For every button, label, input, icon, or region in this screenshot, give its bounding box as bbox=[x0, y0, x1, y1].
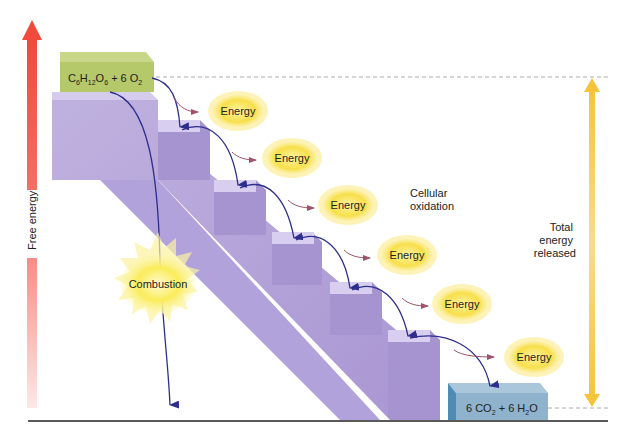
energy-label: Energy bbox=[221, 105, 256, 117]
total-energy-label: Total energy released bbox=[534, 221, 576, 259]
y-axis-label: Free energy bbox=[26, 190, 38, 250]
energy-diagram: Free energy C6H12O6 + 6 O2 bbox=[0, 0, 626, 440]
reactants-box: C6H12O6 + 6 O2 bbox=[60, 52, 154, 92]
cellular-oxidation-label: Cellular oxidation bbox=[410, 187, 454, 212]
products-box: 6 CO2 + 6 H2O bbox=[448, 383, 548, 420]
energy-burst-5: Energy bbox=[432, 284, 492, 324]
energy-burst-6: Energy bbox=[504, 337, 564, 377]
energy-label: Energy bbox=[275, 152, 310, 164]
combustion-label: Combustion bbox=[129, 278, 188, 290]
total-energy-arrow bbox=[584, 78, 600, 407]
energy-burst-1: Energy bbox=[208, 91, 268, 131]
energy-label: Energy bbox=[390, 249, 425, 261]
energy-burst-3: Energy bbox=[318, 185, 378, 225]
energy-label: Energy bbox=[445, 298, 480, 310]
energy-label: Energy bbox=[331, 199, 366, 211]
energy-label: Energy bbox=[517, 351, 552, 363]
energy-burst-2: Energy bbox=[262, 138, 322, 178]
up-arrow-icon bbox=[22, 20, 42, 40]
energy-burst-4: Energy bbox=[377, 235, 437, 275]
